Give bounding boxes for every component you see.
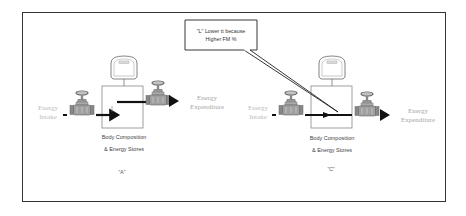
energy-intake-label: Energy Intake bbox=[26, 104, 70, 122]
callout-text-line2: Higher FM % bbox=[185, 35, 257, 43]
intake-valve-icon bbox=[279, 91, 303, 115]
energy-expenditure-label: Energy Expenditure bbox=[182, 94, 232, 112]
energy-store-box bbox=[102, 86, 143, 128]
expenditure-valve-icon bbox=[146, 81, 170, 105]
energy-intake-label: Energy Intake bbox=[236, 104, 280, 122]
panel-c bbox=[272, 56, 388, 128]
energy-expenditure-label: Energy Expenditure bbox=[393, 107, 443, 125]
panel-label-c: "C" bbox=[321, 166, 341, 172]
panel-a bbox=[63, 56, 177, 128]
panel-label-a: "A" bbox=[112, 169, 132, 175]
callout-text-line1: "L" Lower tt because bbox=[185, 27, 257, 35]
body-composition-label: Body Composition & Energy Stores bbox=[92, 133, 156, 153]
intake-valve-icon bbox=[70, 91, 94, 115]
expenditure-valve-icon bbox=[355, 92, 379, 116]
thermostat-icon bbox=[319, 56, 345, 79]
thermostat-icon bbox=[111, 56, 137, 79]
body-composition-label: Body Composition & Energy Stores bbox=[300, 134, 364, 154]
